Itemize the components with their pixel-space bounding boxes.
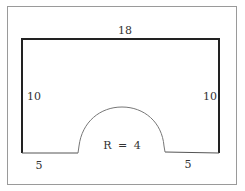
- label-radius: R = 4: [103, 140, 141, 151]
- label-right-height: 10: [203, 91, 217, 102]
- label-bottom-right: 5: [185, 159, 192, 170]
- label-bottom-left: 5: [36, 160, 43, 171]
- bottom-right-edge: [165, 152, 219, 153]
- shape-outline-thick: [22, 39, 219, 153]
- diagram-canvas: 18 10 10 R = 4 5 5: [0, 0, 245, 191]
- label-left-height: 10: [27, 91, 41, 102]
- label-top-width: 18: [118, 25, 132, 36]
